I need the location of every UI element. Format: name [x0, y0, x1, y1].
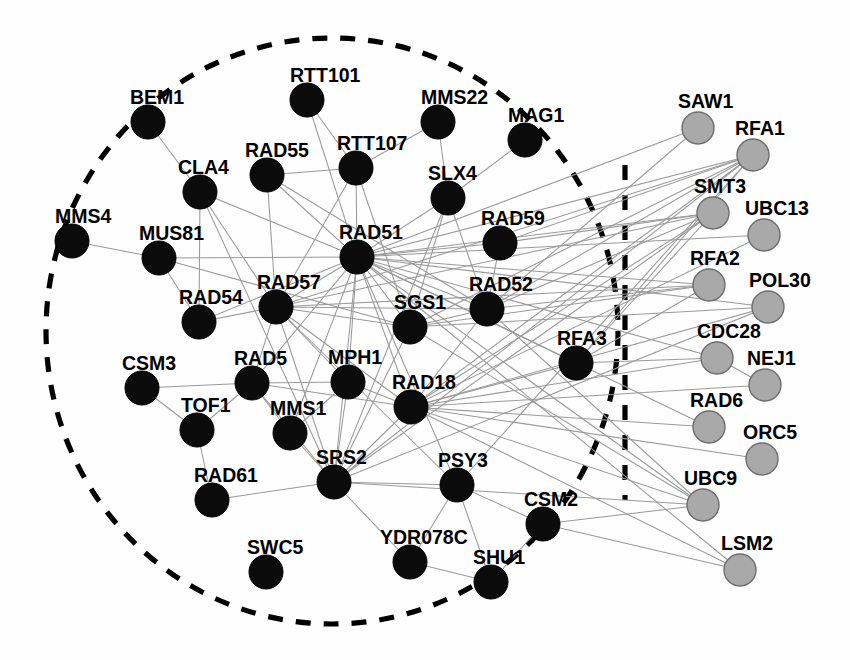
node-rad52[interactable] — [470, 292, 504, 326]
node-label-ydr078c: YDR078C — [380, 526, 468, 548]
node-label-rad59: RAD59 — [481, 207, 545, 229]
node-mag1[interactable] — [508, 123, 542, 157]
edge-cla4-rad51 — [200, 192, 357, 257]
node-label-rad54: RAD54 — [179, 286, 243, 308]
node-mms1[interactable] — [273, 416, 307, 450]
node-label-srs2: SRS2 — [316, 446, 367, 468]
node-label-mag1: MAG1 — [508, 104, 564, 126]
node-label-csm2: CSM2 — [524, 488, 578, 510]
node-label-shu1: SHU1 — [473, 546, 525, 568]
node-label-saw1: SAW1 — [678, 90, 733, 112]
node-label-slx4: SLX4 — [428, 162, 477, 184]
node-rad6[interactable] — [693, 411, 725, 443]
node-label-swc5: SWC5 — [247, 536, 303, 558]
node-csm3[interactable] — [125, 371, 159, 405]
node-cla4[interactable] — [183, 175, 217, 209]
node-rad57[interactable] — [259, 290, 293, 324]
node-label-psy3: PSY3 — [438, 449, 488, 471]
node-label-pol30: POL30 — [749, 269, 811, 291]
node-label-mms22: MMS22 — [421, 86, 488, 108]
edge-rad57-rad52 — [276, 307, 487, 309]
node-ubc9[interactable] — [687, 489, 719, 521]
node-label-rad57: RAD57 — [257, 271, 321, 293]
edge-mus81-rad51 — [159, 257, 357, 258]
node-srs2[interactable] — [317, 465, 351, 499]
node-label-cdc28: CDC28 — [697, 320, 761, 342]
node-slx4[interactable] — [431, 181, 465, 215]
node-label-ubc9: UBC9 — [684, 467, 737, 489]
node-ydr078c[interactable] — [393, 545, 427, 579]
node-label-rfa2: RFA2 — [690, 247, 740, 269]
node-label-mus81: MUS81 — [139, 222, 204, 244]
node-mms22[interactable] — [421, 105, 455, 139]
node-nej1[interactable] — [749, 369, 781, 401]
node-mms4[interactable] — [55, 224, 89, 258]
node-saw1[interactable] — [682, 112, 714, 144]
node-label-rad61: RAD61 — [194, 464, 258, 486]
node-rfa3[interactable] — [559, 346, 593, 380]
edge-rad18-smt3 — [411, 213, 713, 407]
node-bem1[interactable] — [131, 105, 165, 139]
edge-csm2-lsm2 — [543, 524, 740, 570]
edge-srs2-ubc9 — [334, 482, 703, 505]
node-label-mph1: MPH1 — [328, 346, 382, 368]
node-label-orc5: ORC5 — [743, 421, 797, 443]
node-rad54[interactable] — [182, 305, 216, 339]
node-rad59[interactable] — [483, 226, 517, 260]
node-rtt107[interactable] — [339, 151, 373, 185]
node-ubc13[interactable] — [748, 219, 780, 251]
node-rad55[interactable] — [250, 158, 284, 192]
node-rad18[interactable] — [394, 390, 428, 424]
node-label-tof1: TOF1 — [181, 394, 231, 416]
node-label-rad18: RAD18 — [392, 371, 456, 393]
node-layer — [55, 83, 784, 599]
network-graph: BEM1RTT101MMS22MAG1CLA4RAD55RTT107SLX4MM… — [0, 0, 850, 660]
node-csm2[interactable] — [526, 507, 560, 541]
node-label-mms1: MMS1 — [270, 397, 326, 419]
node-mus81[interactable] — [142, 241, 176, 275]
edge-rad18-rad6 — [411, 407, 709, 427]
node-psy3[interactable] — [440, 468, 474, 502]
node-pol30[interactable] — [752, 291, 784, 323]
node-smt3[interactable] — [697, 197, 729, 229]
edge-rad51-rfa1 — [357, 155, 753, 257]
node-sgs1[interactable] — [393, 310, 427, 344]
node-label-nej1: NEJ1 — [747, 347, 796, 369]
node-label-rad5: RAD5 — [234, 347, 287, 369]
node-label-rfa1: RFA1 — [735, 117, 785, 139]
node-label-rtt101: RTT101 — [290, 64, 361, 86]
edge-rad51-rfa2 — [357, 257, 709, 285]
node-cdc28[interactable] — [701, 342, 733, 374]
node-label-rfa3: RFA3 — [557, 327, 607, 349]
node-label-smt3: SMT3 — [694, 175, 746, 197]
node-label-rad51: RAD51 — [339, 221, 403, 243]
node-label-bem1: BEM1 — [130, 86, 184, 108]
node-label-sgs1: SGS1 — [394, 291, 446, 313]
node-shu1[interactable] — [474, 565, 508, 599]
node-label-ubc13: UBC13 — [745, 197, 809, 219]
node-label-lsm2: LSM2 — [721, 532, 773, 554]
node-label-rad6: RAD6 — [690, 389, 743, 411]
node-rad51[interactable] — [340, 240, 374, 274]
node-label-rtt107: RTT107 — [337, 132, 407, 154]
network-diagram-canvas: BEM1RTT101MMS22MAG1CLA4RAD55RTT107SLX4MM… — [0, 0, 850, 660]
node-mph1[interactable] — [331, 365, 365, 399]
node-label-csm3: CSM3 — [122, 352, 176, 374]
edge-rfa3-cdc28 — [576, 358, 717, 363]
node-swc5[interactable] — [249, 555, 283, 589]
node-rtt101[interactable] — [290, 83, 324, 117]
node-lsm2[interactable] — [724, 554, 756, 586]
node-label-rad55: RAD55 — [245, 139, 309, 161]
node-orc5[interactable] — [746, 443, 778, 475]
node-rad61[interactable] — [195, 483, 229, 517]
node-label-rad52: RAD52 — [469, 273, 533, 295]
node-rfa2[interactable] — [693, 269, 725, 301]
node-label-mms4: MMS4 — [55, 205, 111, 227]
node-rfa1[interactable] — [737, 139, 769, 171]
node-tof1[interactable] — [180, 413, 214, 447]
edge-rad57-sgs1 — [276, 307, 410, 327]
node-rad5[interactable] — [235, 366, 269, 400]
node-label-cla4: CLA4 — [178, 156, 229, 178]
